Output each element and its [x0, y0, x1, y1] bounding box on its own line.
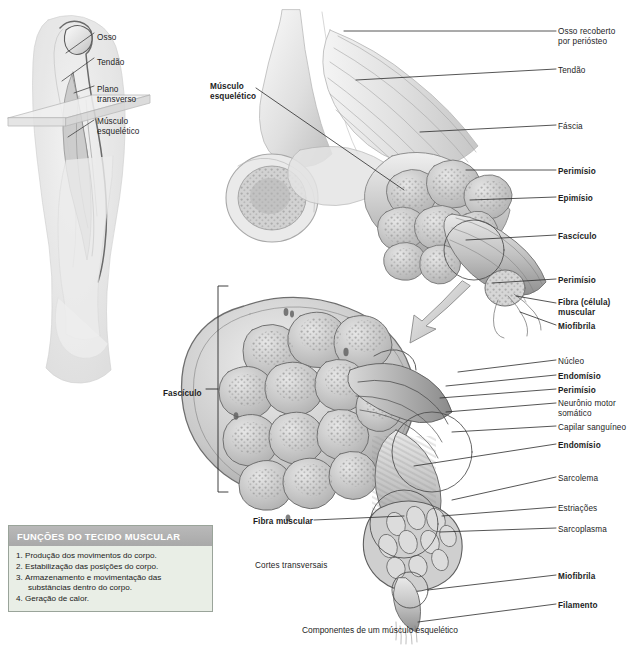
main-label-0: Músculo esquelético	[210, 82, 256, 101]
function-item: 1.Produção dos movimentos do corpo.	[16, 551, 206, 561]
main-label-right-5: Fascículo	[558, 232, 597, 242]
fascicle-bracket	[206, 286, 228, 492]
main-label-1: Fascículo	[163, 389, 202, 399]
function-item-number: 2.	[16, 562, 25, 572]
functions-list: 1.Produção dos movimentos do corpo.2.Est…	[9, 546, 212, 611]
inset-label-0: Osso	[97, 33, 117, 43]
transition-arrow	[410, 281, 470, 343]
inset-label-3: Músculo esquelético	[97, 117, 140, 136]
main-label-right-2: Fáscia	[558, 122, 583, 132]
main-label-right-18: Miofibrila	[558, 572, 595, 582]
main-label-3: Cortes transversais	[255, 561, 327, 571]
function-item-number: 3.	[16, 573, 25, 583]
main-label-right-4: Epimísio	[558, 194, 593, 204]
main-label-right-19: Filamento	[558, 601, 598, 611]
main-label-right-14: Endomísio	[558, 441, 601, 451]
function-item: 2.Estabilização das posições do corpo.	[16, 562, 206, 572]
main-label-right-13: Capilar sanguíneo	[558, 423, 626, 433]
main-label-right-16: Estriações	[558, 504, 597, 514]
function-item-number: 4.	[16, 594, 25, 604]
arm-inset-art	[8, 15, 150, 383]
muscle-functions-panel: FUNÇÕES DO TECIDO MUSCULAR 1.Produção do…	[8, 525, 213, 612]
muscle-cut-face	[378, 160, 513, 284]
main-label-right-1: Tendão	[558, 66, 585, 76]
function-item: 3.Armazenamento e movimentação das subst…	[16, 573, 206, 594]
main-label-right-7: Fibra (célula) muscular	[558, 298, 610, 317]
main-label-right-12: Neurônio motor somático	[558, 399, 616, 418]
figure-canvas: OssoTendãoPlano transversoMúsculo esquel…	[0, 0, 634, 645]
main-label-right-3: Perimísio	[558, 167, 596, 177]
main-label-right-17: Sarcoplasma	[558, 525, 607, 535]
inset-leader-lines	[62, 33, 94, 137]
figure-caption: Componentes de um músculo esquelético	[302, 625, 458, 635]
main-label-2: Fibra muscular	[253, 517, 313, 527]
function-item-number: 1.	[16, 551, 25, 561]
main-label-right-8: Miofibrila	[558, 322, 595, 332]
fascicle-cross-section-art	[182, 220, 504, 644]
main-label-right-9: Núcleo	[558, 357, 584, 367]
tendon-art	[323, 30, 478, 206]
inset-label-2: Plano transverso	[97, 85, 136, 104]
main-label-right-6: Perimísio	[558, 276, 596, 286]
main-leader-lines	[256, 31, 556, 622]
main-label-right-15: Sarcolema	[558, 474, 598, 484]
function-item: 4.Geração de calor.	[16, 594, 206, 604]
skeletal-muscle-art	[226, 10, 546, 343]
functions-panel-title: FUNÇÕES DO TECIDO MUSCULAR	[9, 526, 212, 546]
neurovascular-bundle-art	[348, 350, 452, 458]
main-label-right-0: Osso recoberto por periósteo	[558, 27, 615, 46]
inset-label-1: Tendão	[97, 58, 124, 68]
main-label-right-11: Perimísio	[558, 386, 596, 396]
main-label-right-10: Endomísio	[558, 372, 601, 382]
